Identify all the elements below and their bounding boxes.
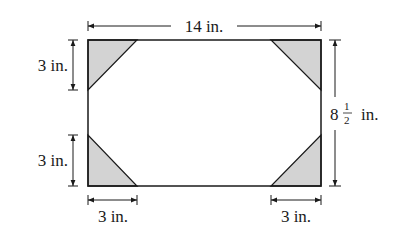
outer-rectangle (88, 40, 321, 186)
bottom-right-base-dimension: 3 in. (271, 195, 321, 226)
bottom-left-leg-label: 3 in. (38, 151, 68, 170)
corner-triangle-top-right (271, 40, 321, 90)
bottom-left-leg-dimension: 3 in. (38, 135, 78, 186)
height-unit: in. (361, 105, 378, 124)
bottom-left-base-label: 3 in. (98, 207, 128, 226)
height-frac-den: 2 (344, 114, 350, 126)
corner-triangle-bottom-left (88, 135, 137, 186)
rectangle-corner-cut-diagram: 14 in. 8 1 2 in. 3 in. 3 in. 3 in. (0, 0, 405, 239)
width-dimension: 14 in. (88, 17, 321, 36)
bottom-right-base-label: 3 in. (281, 207, 311, 226)
bottom-left-base-dimension: 3 in. (88, 195, 137, 226)
corner-triangle-bottom-right (271, 135, 321, 186)
height-frac-num: 1 (344, 100, 350, 112)
top-left-leg-dimension: 3 in. (38, 40, 78, 90)
height-dimension: 8 1 2 in. (329, 40, 378, 186)
top-left-leg-label: 3 in. (38, 56, 68, 75)
corner-triangle-top-left (88, 40, 137, 90)
height-whole: 8 (330, 105, 339, 124)
width-label: 14 in. (185, 17, 224, 36)
